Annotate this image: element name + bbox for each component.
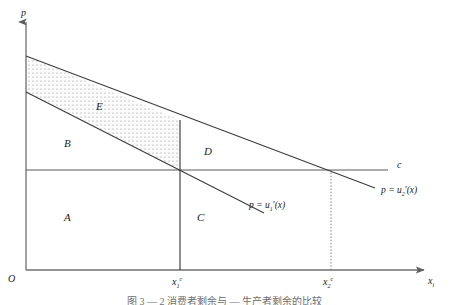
- tick-label-x2c: x2c: [323, 276, 333, 290]
- y-axis-label: p: [21, 8, 26, 18]
- curve-label-u2-prime: p = u2′(x): [381, 186, 417, 198]
- curve-label-u1-prime: p = u1′(x): [249, 201, 285, 213]
- region-label-e: E: [96, 101, 103, 112]
- tick-x2c-sup: c: [331, 275, 334, 282]
- origin-label: O: [8, 274, 15, 284]
- curve-u2-prime: [26, 56, 375, 188]
- curve-label-u1-tail: (x): [275, 200, 286, 210]
- tick-label-x1c: x1c: [172, 276, 182, 290]
- curve-label-u1-text: p = u: [249, 200, 270, 210]
- tick-x1c-sup: c: [180, 275, 183, 282]
- x-axis-label: xi: [428, 276, 434, 288]
- figure-caption: 图 3 — 2 消费者剩余与 — 生产者剩余的比较: [0, 293, 449, 305]
- cost-line-label-c: c: [397, 160, 401, 170]
- shaded-region-e: [26, 56, 180, 170]
- x-axis-label-sub: i: [432, 281, 434, 288]
- diagram-canvas: [0, 0, 449, 305]
- economics-surplus-diagram: p xi O x1c x2c A B C D E c p = u1′(x) p …: [0, 0, 449, 305]
- curve-label-u2-tail: (x): [407, 185, 418, 195]
- tick-x1c-sub: 1: [176, 282, 179, 289]
- region-label-b: B: [64, 138, 71, 149]
- curve-label-u2-text: p = u: [381, 185, 402, 195]
- region-label-d: D: [204, 146, 212, 157]
- region-label-a: A: [64, 212, 71, 223]
- tick-x2c-sub: 2: [327, 282, 330, 289]
- region-label-c: C: [197, 212, 204, 223]
